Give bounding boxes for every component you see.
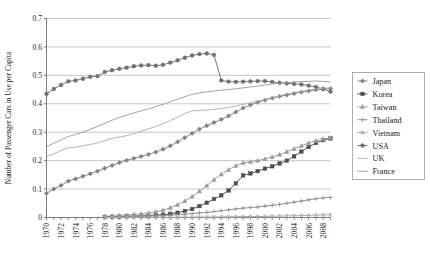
legend-box bbox=[353, 73, 425, 180]
data-point bbox=[270, 80, 274, 84]
series-line bbox=[105, 138, 331, 216]
data-point bbox=[110, 163, 114, 167]
series-uk bbox=[47, 88, 331, 157]
x-tick-label: 1976 bbox=[86, 223, 95, 238]
x-axis-ticks: 1970197219741976197819801982198419861988… bbox=[42, 218, 330, 239]
data-point bbox=[205, 52, 209, 56]
x-tick-label: 1992 bbox=[203, 223, 212, 238]
data-point bbox=[81, 77, 85, 81]
data-point bbox=[52, 187, 56, 191]
legend-item-label: Taiwan bbox=[373, 103, 397, 112]
series-france bbox=[47, 81, 331, 147]
data-point bbox=[227, 189, 231, 193]
data-point bbox=[205, 201, 209, 205]
data-point bbox=[212, 197, 216, 201]
x-tick-label: 1978 bbox=[101, 223, 110, 238]
data-point bbox=[190, 131, 194, 135]
series-line bbox=[47, 88, 331, 157]
data-point bbox=[299, 83, 303, 87]
x-tick-label: 1994 bbox=[217, 223, 226, 238]
data-point bbox=[168, 61, 172, 65]
x-tick-label: 1990 bbox=[188, 223, 197, 238]
y-tick-label: 0.5 bbox=[33, 71, 43, 80]
data-point bbox=[147, 63, 151, 67]
data-point bbox=[329, 90, 333, 94]
data-point bbox=[234, 110, 238, 114]
data-point bbox=[183, 56, 187, 60]
data-point bbox=[88, 172, 92, 176]
data-point bbox=[361, 144, 365, 148]
data-point bbox=[95, 169, 99, 173]
legend-item-label: Vietnam bbox=[373, 129, 401, 138]
data-point bbox=[176, 58, 180, 62]
line-chart: 00.10.20.30.40.50.60.7 19701972197419761… bbox=[0, 0, 430, 254]
y-tick-label: 0.6 bbox=[33, 43, 43, 52]
data-point bbox=[241, 106, 245, 110]
data-point bbox=[198, 204, 202, 208]
x-tick-label: 2004 bbox=[290, 223, 299, 238]
data-point bbox=[212, 177, 216, 181]
data-point bbox=[219, 172, 223, 176]
series-taiwan bbox=[103, 136, 333, 218]
data-point bbox=[234, 80, 238, 84]
data-point bbox=[110, 68, 114, 72]
data-point bbox=[81, 174, 85, 178]
chart-container: 00.10.20.30.40.50.60.7 19701972197419761… bbox=[0, 0, 430, 254]
legend-item-label: Thailand bbox=[373, 116, 402, 125]
data-point bbox=[132, 156, 136, 160]
data-point bbox=[263, 167, 267, 171]
x-tick-label: 1980 bbox=[115, 223, 124, 238]
legend-item-label: Korea bbox=[373, 90, 393, 99]
data-point bbox=[263, 79, 267, 83]
x-tick-label: 1970 bbox=[42, 223, 51, 238]
data-point bbox=[44, 191, 48, 195]
data-point bbox=[205, 123, 209, 127]
x-tick-label: 2002 bbox=[275, 223, 284, 238]
x-tick-label: 2006 bbox=[305, 223, 314, 238]
legend-item-label: France bbox=[373, 167, 396, 176]
data-point bbox=[154, 64, 158, 68]
data-point bbox=[161, 63, 165, 67]
y-axis-title: Number of Passenger Cars in Use per Capi… bbox=[4, 51, 13, 184]
data-point bbox=[270, 165, 274, 169]
data-point bbox=[66, 79, 70, 83]
data-point bbox=[219, 117, 223, 121]
data-point bbox=[52, 87, 56, 91]
data-point bbox=[212, 120, 216, 124]
data-point bbox=[226, 114, 230, 118]
data-point bbox=[161, 147, 165, 151]
legend-item-label: USA bbox=[373, 142, 389, 151]
data-point bbox=[197, 127, 201, 131]
data-point bbox=[314, 85, 318, 89]
chart-legend: JapanKoreaTaiwanThailandVietnamUSAUKFran… bbox=[353, 73, 425, 180]
data-point bbox=[139, 154, 143, 158]
data-point bbox=[292, 82, 296, 86]
series-usa bbox=[45, 52, 333, 96]
x-tick-label: 1984 bbox=[144, 223, 153, 238]
data-point bbox=[117, 160, 121, 164]
x-tick-label: 1974 bbox=[72, 223, 81, 238]
series-line bbox=[47, 81, 331, 147]
data-point bbox=[190, 194, 194, 198]
data-point bbox=[175, 140, 179, 144]
data-point bbox=[234, 182, 238, 186]
data-point bbox=[212, 53, 216, 57]
data-point bbox=[292, 155, 296, 159]
data-point bbox=[124, 158, 128, 162]
data-point bbox=[227, 80, 231, 84]
data-point bbox=[59, 83, 63, 87]
data-point bbox=[278, 162, 282, 166]
x-tick-label: 2008 bbox=[319, 223, 328, 238]
data-point bbox=[73, 177, 77, 181]
data-point bbox=[103, 70, 107, 74]
data-point bbox=[88, 75, 92, 79]
x-tick-label: 1972 bbox=[57, 223, 66, 238]
series-korea bbox=[103, 137, 332, 219]
data-point bbox=[361, 92, 365, 96]
data-point bbox=[74, 79, 78, 83]
data-point bbox=[146, 152, 150, 156]
data-point bbox=[256, 79, 260, 83]
y-tick-label: 0.4 bbox=[33, 99, 43, 108]
data-point bbox=[103, 166, 107, 170]
data-point bbox=[125, 66, 129, 70]
